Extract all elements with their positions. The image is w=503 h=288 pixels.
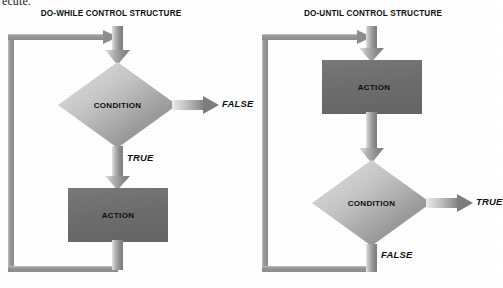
do-until-title: DO-UNTIL CONTROL STRUCTURE	[258, 9, 488, 18]
do-while-action-to-loop	[112, 240, 123, 270]
do-while-entry-arrow	[105, 26, 130, 65]
do-until-condition-label: CONDITION	[324, 199, 419, 208]
do-while-false-label: FALSE	[222, 98, 254, 109]
do-while-true-label: TRUE	[127, 152, 154, 163]
do-until-true-arrow	[426, 194, 473, 212]
do-while-title: DO-WHILE CONTROL STRUCTURE	[0, 9, 222, 18]
do-until-false-label: FALSE	[381, 249, 413, 260]
do-while-condition-label: CONDITION	[70, 101, 165, 110]
do-until-true-label: TRUE	[476, 196, 503, 207]
do-until-action-label: ACTION	[324, 83, 424, 92]
do-until-false-connector	[366, 244, 377, 272]
do-while-false-arrow	[172, 96, 219, 114]
do-while-action-label: ACTION	[68, 211, 168, 220]
do-until-entry-arrow	[359, 26, 384, 62]
diagram-do-until	[262, 26, 473, 272]
diagram-do-while	[8, 26, 219, 272]
do-until-action-to-condition	[359, 112, 384, 163]
